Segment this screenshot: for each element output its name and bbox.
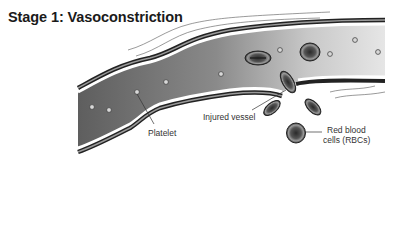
label-platelet: Platelet [148, 128, 176, 138]
label-rbc-line1: Red blood [327, 125, 366, 135]
label-injured-vessel: Injured vessel [203, 112, 255, 122]
label-rbc-line2: cells (RBCs) [323, 135, 370, 145]
